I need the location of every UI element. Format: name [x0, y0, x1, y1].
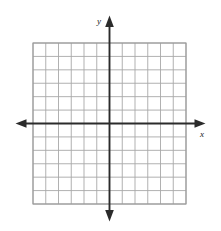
y-axis-label: y	[96, 16, 101, 26]
coordinate-grid-figure: y x	[0, 0, 221, 231]
coordinate-plane-svg: y x	[0, 0, 221, 231]
x-axis-label: x	[199, 129, 204, 139]
